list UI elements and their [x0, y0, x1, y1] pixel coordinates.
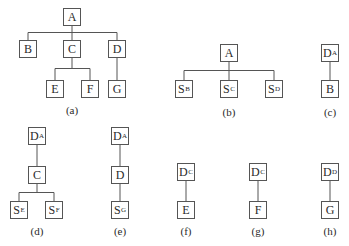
node-subscript: C — [188, 169, 193, 176]
node-g: G — [108, 80, 126, 98]
node-subscript: A — [332, 50, 337, 57]
node-label: C — [33, 169, 41, 181]
node-sd: SD — [265, 80, 283, 98]
node-d: D — [111, 166, 129, 184]
node-subscript: G — [121, 207, 126, 214]
node-label: S — [13, 204, 20, 216]
caption-c: (c) — [324, 106, 336, 118]
node-label: D — [323, 47, 332, 59]
node-label: S — [48, 204, 55, 216]
node-label: S — [178, 83, 185, 95]
node-label: E — [51, 83, 58, 95]
node-label: A — [68, 11, 77, 23]
node-subscript: B — [185, 86, 190, 93]
node-label: C — [68, 43, 76, 55]
caption-h: (h) — [324, 225, 337, 237]
node-label: G — [326, 204, 335, 216]
node-subscript: C — [230, 86, 235, 93]
node-label: S — [268, 83, 275, 95]
caption-e: (e) — [114, 225, 126, 237]
caption-b: (b) — [223, 106, 236, 118]
node-f: F — [81, 80, 99, 98]
node-label: D — [113, 130, 122, 142]
node-label: F — [87, 83, 94, 95]
node-c: C — [63, 40, 81, 58]
caption-g: (g) — [252, 225, 265, 237]
caption-f: (f) — [181, 225, 192, 237]
node-sc: SC — [220, 80, 238, 98]
node-e: E — [177, 201, 195, 219]
node-b: B — [321, 80, 339, 98]
node-subscript: D — [275, 86, 280, 93]
node-dc: DC — [177, 163, 195, 181]
node-subscript: F — [56, 207, 60, 214]
node-subscript: C — [260, 169, 265, 176]
node-label: D — [323, 166, 332, 178]
node-sg: SG — [111, 201, 129, 219]
node-label: S — [223, 83, 230, 95]
node-dc: DC — [249, 163, 267, 181]
node-se: SE — [10, 201, 28, 219]
caption-d: (d) — [31, 225, 44, 237]
node-c: C — [28, 166, 46, 184]
caption-a: (a) — [66, 104, 78, 116]
node-label: F — [255, 204, 262, 216]
node-label: G — [113, 83, 122, 95]
node-subscript: D — [332, 169, 337, 176]
node-label: B — [24, 43, 32, 55]
node-label: D — [179, 166, 188, 178]
node-label: E — [182, 204, 189, 216]
node-da: DA — [28, 127, 46, 145]
node-da: DA — [111, 127, 129, 145]
node-subscript: E — [20, 207, 24, 214]
node-da: DA — [321, 44, 339, 62]
node-d: D — [108, 40, 126, 58]
node-e: E — [46, 80, 64, 98]
node-label: A — [225, 47, 234, 59]
node-label: D — [113, 43, 122, 55]
node-f: F — [249, 201, 267, 219]
node-a: A — [220, 44, 238, 62]
node-dd: DD — [321, 163, 339, 181]
node-g: G — [321, 201, 339, 219]
node-a: A — [63, 8, 81, 26]
node-subscript: A — [39, 133, 44, 140]
node-sf: SF — [45, 201, 63, 219]
node-label: S — [114, 204, 121, 216]
node-label: D — [116, 169, 125, 181]
node-b: B — [19, 40, 37, 58]
node-sb: SB — [175, 80, 193, 98]
node-label: D — [30, 130, 39, 142]
node-label: B — [326, 83, 334, 95]
node-label: D — [251, 166, 260, 178]
node-subscript: A — [122, 133, 127, 140]
